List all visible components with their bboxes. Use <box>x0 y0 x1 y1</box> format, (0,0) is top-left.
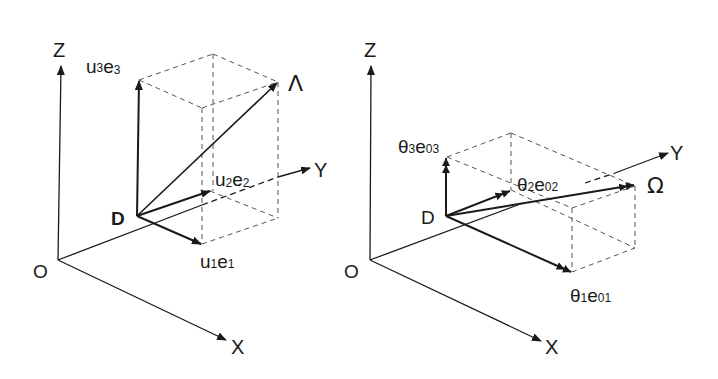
vector-u2e2 <box>137 191 210 216</box>
right-y-axis-dashed <box>585 173 615 183</box>
u1e1-label: u1e1 <box>200 251 235 272</box>
left-z-label: Z <box>53 39 65 61</box>
right-dashed-box <box>447 133 635 272</box>
vector-decomposition-figure: Z Y X O D Λ u3e3 u2e2 u1e1 <box>0 0 718 379</box>
left-point-d-label: D <box>111 208 125 229</box>
vector-theta2e02 <box>446 191 510 216</box>
left-axes <box>58 66 310 340</box>
right-y-label: Y <box>670 142 683 164</box>
lambda-label: Λ <box>288 71 303 96</box>
theta1e01-label: θ1e01 <box>570 285 612 306</box>
vector-u3e3 <box>137 81 139 216</box>
right-x-label: X <box>545 336 558 358</box>
right-z-axis <box>370 66 371 260</box>
right-origin-label: O <box>344 261 359 282</box>
right-point-d-label: D <box>421 207 435 228</box>
vector-u1e1 <box>137 216 201 244</box>
left-z-axis <box>58 66 61 260</box>
vector-theta1e01 <box>446 216 571 272</box>
vector-lambda <box>137 83 277 216</box>
u2e2-label: u2e2 <box>215 169 250 190</box>
u3e3-label: u3e3 <box>86 56 121 77</box>
left-x-axis <box>58 260 226 340</box>
theta2e02-label: θ2e02 <box>517 174 559 195</box>
left-vectors <box>137 81 277 244</box>
left-y-axis-tip <box>278 168 310 177</box>
right-z-label: Z <box>364 39 376 61</box>
right-panel: Z Y X O D Ω θ3e03 θ2e02 θ1e01 <box>344 39 683 358</box>
left-x-label: X <box>231 336 244 358</box>
right-y-axis-tip <box>615 153 668 173</box>
theta3e03-label: θ3e03 <box>398 136 440 157</box>
omega-label: Ω <box>647 173 664 198</box>
left-y-label: Y <box>314 159 327 181</box>
right-x-axis <box>370 260 541 341</box>
left-panel: Z Y X O D Λ u3e3 u2e2 u1e1 <box>33 39 327 358</box>
left-y-axis-solid <box>58 205 202 260</box>
left-origin-label: O <box>33 261 48 282</box>
